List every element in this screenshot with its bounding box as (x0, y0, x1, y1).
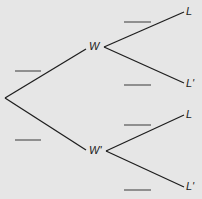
node-l-top: L (186, 6, 192, 17)
node-w: W (89, 41, 99, 52)
branch-wprime-lprime (106, 151, 184, 187)
branch-root-wprime (5, 98, 86, 150)
tree-lines (0, 0, 202, 199)
tree-diagram: W W' L L' L L' (0, 0, 202, 199)
branch-wprime-l (106, 115, 184, 151)
node-lprime-bottom: L' (186, 181, 194, 192)
branch-w-lprime (104, 47, 184, 83)
node-lprime-top: L' (186, 78, 194, 89)
node-l-bottom: L (186, 109, 192, 120)
node-wprime: W' (89, 145, 101, 156)
branch-w-l (104, 12, 184, 47)
branch-root-w (5, 49, 86, 98)
